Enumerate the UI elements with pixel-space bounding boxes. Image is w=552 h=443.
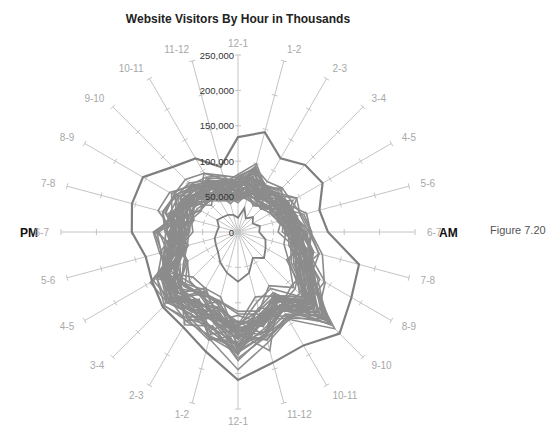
category-label: 7-8 [421,275,436,286]
category-label: 5-6 [421,178,436,189]
category-label: 10-11 [119,63,144,74]
category-label: 4-5 [60,321,75,332]
category-label: 5-6 [41,275,56,286]
axis-tick [165,108,170,111]
category-label: 1-2 [175,409,190,420]
radial-tick-label: 50,000 [205,191,234,202]
radar-series [132,132,359,380]
category-label: 11-12 [287,409,312,420]
axis-tick [83,141,86,146]
axis-line [67,232,238,278]
axis-tick [289,139,294,142]
axis-tick [206,212,209,217]
category-label: 12-1 [228,416,248,427]
category-label: 1-2 [287,44,302,55]
axis-tick [390,318,393,323]
category-label: 8-9 [60,132,75,143]
category-label: 7-8 [41,178,56,189]
axis-tick [200,169,205,172]
axis-tick [328,283,331,288]
radial-tick-labels: 050,000100,000150,000200,000250,000 [200,50,234,238]
axis-tick [182,139,187,142]
category-label: 2-3 [129,390,144,401]
axis-tick [359,300,362,305]
axis-tick [145,283,148,288]
radial-tick-label: 0 [229,227,234,238]
radial-tick-label: 100,000 [200,156,234,167]
axis-tick [165,353,170,356]
axis-tick [306,353,311,356]
radial-tick-label: 150,000 [200,120,234,131]
axis-tick [83,318,86,323]
radial-tick-label: 250,000 [200,50,234,61]
category-label: 11-12 [164,44,189,55]
axis-tick [298,194,301,199]
category-label: 6-7 [35,227,50,238]
category-label: 8-9 [402,321,417,332]
axis-tick [253,261,258,264]
axis-tick [324,384,329,387]
radial-tick-label: 200,000 [200,85,234,96]
category-label: 6-7 [427,227,442,238]
category-label: 3-4 [372,93,387,104]
axis-tick [324,77,329,80]
radar-chart: 050,000100,000150,000200,000250,000 12-1… [0,0,552,443]
axis-tick [114,300,117,305]
category-label: 4-5 [402,132,417,143]
category-label: 2-3 [333,63,348,74]
category-label: 9-10 [372,360,392,371]
axis-tick [114,159,117,164]
axis-tick [359,159,362,164]
category-label: 9-10 [84,93,104,104]
series-line-min [215,208,266,282]
axis-tick [328,176,331,181]
category-label: 12-1 [228,38,248,49]
axis-tick [206,247,209,252]
axis-tick [147,384,152,387]
axis-tick [306,108,311,111]
axis-tick [390,141,393,146]
axis-tick [147,77,152,80]
axis-tick [271,169,276,172]
axis-tick [267,247,270,252]
category-label: 3-4 [90,360,105,371]
category-label: 10-11 [333,390,358,401]
axis-tick [289,322,294,325]
